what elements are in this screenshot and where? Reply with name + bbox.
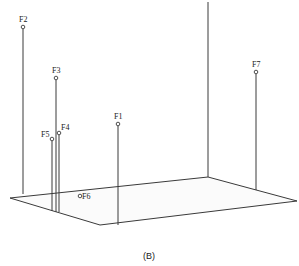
point-f2: F2 [19,15,27,194]
point-label: F4 [61,123,69,132]
point-label: F7 [252,60,260,69]
point-marker-icon [116,122,120,126]
point-f7: F7 [252,60,260,190]
point-label: F1 [114,112,122,121]
point-label: F3 [52,66,60,75]
point-marker-icon [254,70,258,74]
point-label: F5 [41,130,49,139]
point-marker-icon [50,137,54,141]
3d-point-plot: F1F2F3F4F5F6F7 (B) [0,0,299,266]
diagram-canvas: F1F2F3F4F5F6F7 (B) [0,0,299,266]
point-marker-icon [54,76,58,80]
point-label: F2 [19,15,27,24]
point-label: F6 [82,192,90,201]
point-marker-icon [21,25,25,29]
figure-caption: (B) [143,251,155,261]
ground-plane [10,177,297,225]
